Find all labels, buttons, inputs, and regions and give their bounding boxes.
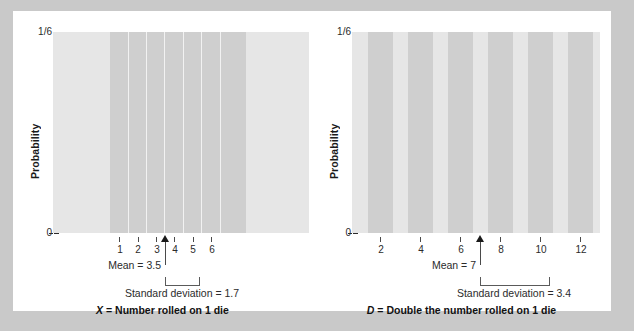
x-tick-8	[500, 237, 501, 242]
x-tick-5	[193, 237, 194, 242]
x-tick-label-6: 6	[200, 244, 224, 255]
bar-8	[488, 32, 513, 233]
mean-label-left: Mean = 3.5	[73, 259, 161, 271]
sd-bracket-left	[165, 277, 200, 286]
bar-2	[220, 32, 246, 233]
bar-12	[568, 32, 593, 233]
bar-separator	[146, 32, 147, 233]
sd-label-left: Standard deviation = 1.7	[72, 287, 292, 299]
bar-separator	[128, 32, 129, 233]
x-axis-line-right	[348, 233, 352, 234]
chart-panel-left: Probability 1/6 0 1 2 3 4	[13, 11, 312, 311]
mean-arrow-head-left	[161, 235, 169, 242]
caption-symbol-left: X	[96, 304, 103, 316]
y-tick-top-left-text: 1/6	[38, 26, 52, 37]
sd-label-right: Standard deviation = 3.4	[404, 287, 624, 299]
x-tick-label-10: 10	[529, 244, 553, 255]
caption-text-right: = Double the number rolled on 1 die	[377, 304, 556, 316]
bar-separator	[183, 32, 184, 233]
x-tick-label-12: 12	[569, 244, 593, 255]
y-tick-bottom-dash-left	[54, 233, 59, 234]
bar-6	[448, 32, 473, 233]
x-tick-label-4: 4	[409, 244, 433, 255]
y-axis-label-left: Probability	[29, 96, 43, 206]
y-axis-label-right: Probability	[328, 96, 342, 206]
x-tick-3	[156, 237, 157, 242]
bar-separator	[220, 32, 221, 233]
mean-arrow-head-right	[476, 235, 484, 242]
bar-separator	[164, 32, 165, 233]
mean-label-right: Mean = 7	[392, 259, 476, 271]
figure-card: Probability 1/6 0 1 2 3 4	[13, 11, 611, 311]
x-tick-6	[211, 237, 212, 242]
x-axis-line-left	[49, 233, 53, 234]
sd-bracket-right	[480, 277, 550, 286]
bar-separator	[201, 32, 202, 233]
bar-4	[408, 32, 433, 233]
mean-arrow-shaft-right	[480, 242, 481, 265]
x-tick-2	[138, 237, 139, 242]
x-tick-10	[540, 237, 541, 242]
x-tick-1	[119, 237, 120, 242]
plot-area-right	[352, 32, 600, 233]
y-tick-top-right-text: 1/6	[337, 26, 351, 37]
plot-area-left	[53, 32, 309, 233]
caption-right: D = Double the number rolled on 1 die	[312, 304, 611, 316]
x-tick-2	[380, 237, 381, 242]
y-tick-bottom-dash-right	[353, 233, 358, 234]
caption-left: X = Number rolled on 1 die	[13, 304, 312, 316]
chart-panel-right: Probability 1/6 0 2 4 6 8 10 12	[312, 11, 611, 311]
x-tick-6	[460, 237, 461, 242]
caption-symbol-right: D	[367, 304, 375, 316]
x-tick-12	[580, 237, 581, 242]
caption-text-left: = Number rolled on 1 die	[106, 304, 229, 316]
x-tick-label-6: 6	[449, 244, 473, 255]
bar-1	[110, 32, 220, 233]
x-tick-4	[174, 237, 175, 242]
x-tick-label-8: 8	[489, 244, 513, 255]
x-tick-label-2: 2	[369, 244, 393, 255]
mean-arrow-shaft-left	[165, 242, 166, 265]
bar-2	[368, 32, 393, 233]
x-tick-4	[420, 237, 421, 242]
bar-10	[528, 32, 553, 233]
